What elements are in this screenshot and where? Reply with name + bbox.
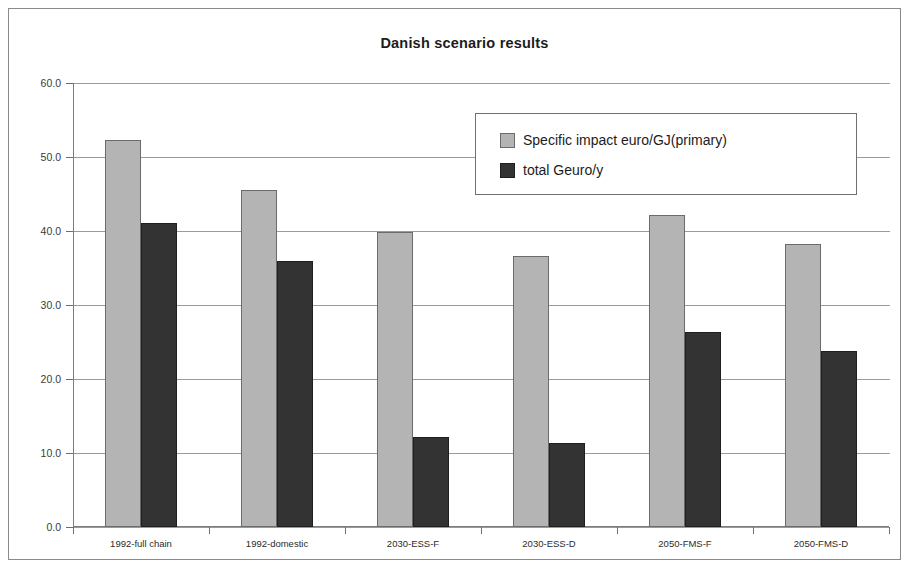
x-axis-tick-mark <box>209 527 210 534</box>
x-axis-tick-mark <box>889 527 890 534</box>
gridline-0-0 <box>74 527 890 528</box>
y-axis-tick-label: 10.0 <box>9 447 61 459</box>
x-axis-tick-mark <box>753 527 754 534</box>
x-axis-tick-mark <box>73 527 74 534</box>
x-axis-category-label: 1992-full chain <box>110 538 172 549</box>
bar <box>649 215 685 527</box>
bar <box>105 140 141 527</box>
legend-swatch-total-geuro <box>500 163 515 178</box>
x-axis-category-label: 2050-FMS-D <box>794 538 848 549</box>
y-axis-tick-label: 30.0 <box>9 299 61 311</box>
y-axis-tick-mark <box>66 379 73 380</box>
bar <box>549 443 585 527</box>
bar <box>821 351 857 527</box>
legend-label-total-geuro: total Geuro/y <box>523 163 603 177</box>
y-axis-tick-label: 40.0 <box>9 225 61 237</box>
bar <box>277 261 313 527</box>
y-axis-tick-mark <box>66 305 73 306</box>
legend-item-total-geuro: total Geuro/y <box>500 155 856 185</box>
y-axis-tick-label: 20.0 <box>9 373 61 385</box>
x-axis-category-label: 2030-ESS-F <box>387 538 439 549</box>
bar <box>141 223 177 527</box>
y-axis-tick-label: 50.0 <box>9 151 61 163</box>
legend-label-specific-impact: Specific impact euro/GJ(primary) <box>523 133 727 147</box>
y-axis-tick-mark <box>66 83 73 84</box>
y-axis-tick-label: 0.0 <box>9 521 61 533</box>
x-axis-tick-mark <box>345 527 346 534</box>
y-axis-tick-label: 60.0 <box>9 77 61 89</box>
bar <box>241 190 277 527</box>
x-axis-tick-mark <box>481 527 482 534</box>
x-axis-category-label: 2030-ESS-D <box>522 538 575 549</box>
bar <box>785 244 821 527</box>
x-axis-category-label: 1992-domestic <box>246 538 308 549</box>
bar <box>377 232 413 527</box>
y-axis-tick-mark <box>66 453 73 454</box>
chart-frame: Danish scenario results Specific impact … <box>8 8 901 560</box>
bar <box>413 437 449 527</box>
y-axis-tick-mark <box>66 527 73 528</box>
bar <box>513 256 549 527</box>
legend-item-specific-impact: Specific impact euro/GJ(primary) <box>500 125 856 155</box>
chart-title: Danish scenario results <box>9 35 911 51</box>
y-axis-tick-mark <box>66 231 73 232</box>
y-axis-tick-mark <box>66 157 73 158</box>
legend-swatch-specific-impact <box>500 133 515 148</box>
x-axis-category-label: 2050-FMS-F <box>658 538 711 549</box>
bar <box>685 332 721 527</box>
chart-legend: Specific impact euro/GJ(primary) total G… <box>475 113 857 195</box>
x-axis-tick-mark <box>617 527 618 534</box>
